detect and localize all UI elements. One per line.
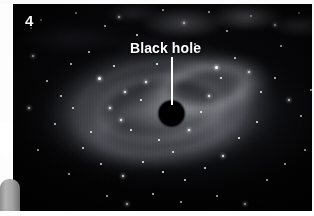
arrow-pointer-icon — [0, 122, 13, 162]
annotation-leader-line — [171, 57, 173, 105]
frame-edge-bottom — [0, 211, 314, 216]
grey-rounded-element — [0, 179, 20, 212]
frame-edge-top — [0, 0, 314, 4]
black-hole-label: Black hole — [130, 40, 201, 56]
figure-screenshot: Black hole 4 — [0, 0, 314, 216]
frame-edge-right — [312, 0, 314, 216]
panel-number: 4 — [25, 12, 33, 29]
galaxy-figure-panel: Black hole 4 — [13, 4, 312, 211]
